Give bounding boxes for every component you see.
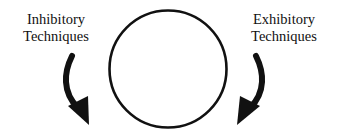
techniques-diagram: Inhibitory Techniques Exhibitory Techniq… xyxy=(0,0,341,135)
right-curved-arrow-icon xyxy=(237,56,262,125)
center-circle xyxy=(110,11,227,128)
left-curved-arrow-icon xyxy=(66,56,89,125)
diagram-graphics xyxy=(0,0,341,135)
